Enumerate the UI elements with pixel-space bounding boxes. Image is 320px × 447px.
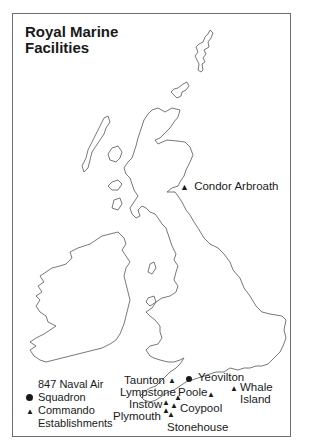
label-lympstone: Lympstone [120, 386, 176, 398]
islay-outline [112, 198, 122, 210]
label-condor-arbroath: Condor Arbroath [194, 180, 278, 192]
legend-circle-line2: Squadron [38, 391, 86, 403]
label-stonehouse: Stonehouse [167, 421, 228, 433]
label-plymouth: Plymouth [113, 410, 161, 422]
triangle-icon-coypool: ▲ [170, 401, 178, 410]
triangle-icon-poole: ▲ [207, 390, 215, 399]
legend-triangle-line1: Commando [38, 404, 95, 416]
label-instow: Instow [129, 398, 162, 410]
isle-of-man-outline [148, 262, 156, 274]
shetland-outline [195, 30, 213, 72]
skye-outline [108, 146, 122, 162]
map-title-line2: Facilities [25, 40, 118, 56]
label-yeovilton: Yeovilton [198, 371, 244, 383]
triangle-icon-taunton: ▲ [168, 376, 176, 385]
orkney-outline [171, 82, 189, 98]
label-island: Island [240, 393, 271, 405]
label-taunton: Taunton [124, 374, 165, 386]
legend-triangle-line2: Establishments [26, 417, 113, 430]
label-poole: Poole [178, 386, 207, 398]
map-title-line1: Royal Marine [25, 24, 118, 40]
triangle-icon: ▲ [180, 182, 189, 192]
marker-condor-arbroath: ▲ Condor Arbroath [180, 180, 279, 193]
circle-icon-yeovilton [186, 376, 192, 382]
great-britain-outline [124, 108, 286, 402]
ireland-outline [30, 232, 130, 362]
circle-icon [26, 394, 33, 401]
legend-circle-line1: 847 Naval Air [26, 378, 113, 391]
label-whale: Whale [240, 381, 273, 393]
triangle-icon-stonehouse: ▲ [167, 410, 175, 419]
label-coypool: Coypool [180, 402, 222, 414]
legend-triangle-entry: ▲ Commando [26, 404, 113, 417]
triangle-icon-whale-island: ▲ [230, 384, 238, 393]
map-title: Royal Marine Facilities [25, 24, 118, 56]
map-legend: 847 Naval Air Squadron ▲ Commando Establ… [26, 378, 113, 430]
legend-circle-entry: Squadron [26, 391, 113, 404]
mull-outline [108, 180, 122, 190]
outer-hebrides-outline [82, 116, 110, 172]
